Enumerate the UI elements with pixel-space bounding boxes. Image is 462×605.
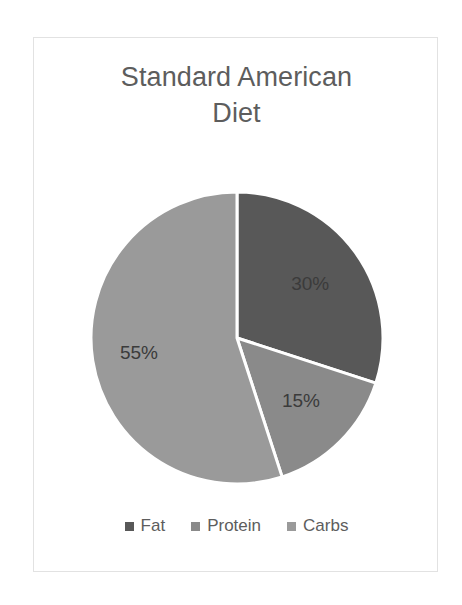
chart-card: Standard American Diet 30%15%55% Fat Pro… (33, 37, 438, 572)
pie-label-fat: 30% (291, 273, 329, 294)
chart-legend: Fat Protein Carbs (34, 516, 439, 536)
legend-label-fat: Fat (141, 516, 166, 536)
legend-item-carbs[interactable]: Carbs (287, 516, 348, 536)
legend-item-fat[interactable]: Fat (125, 516, 166, 536)
pie-slice-group (90, 192, 382, 484)
pie-chart: 30%15%55% (87, 188, 387, 488)
legend-swatch-carbs (287, 522, 296, 531)
legend-swatch-fat (125, 522, 134, 531)
pie-label-protein: 15% (281, 390, 319, 411)
legend-swatch-protein (191, 522, 200, 531)
pie-label-carbs: 55% (119, 342, 157, 363)
pie-chart-area: 30%15%55% (34, 188, 439, 488)
legend-label-carbs: Carbs (303, 516, 348, 536)
legend-item-protein[interactable]: Protein (191, 516, 261, 536)
legend-label-protein: Protein (207, 516, 261, 536)
chart-title: Standard American Diet (34, 60, 439, 131)
